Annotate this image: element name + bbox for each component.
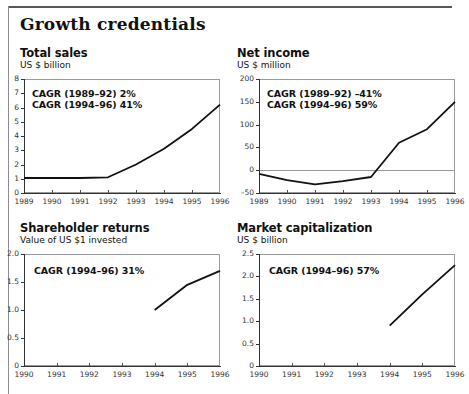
cagr-annotation: CAGR (1994–96) 57%	[269, 265, 379, 277]
